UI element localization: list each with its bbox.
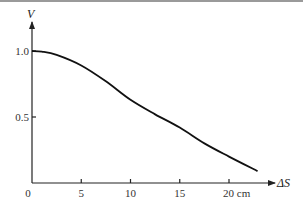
series-line-v [32,51,258,171]
x-tick-label: 15 [174,187,186,199]
y-axis-label: V [27,7,36,21]
y-tick-label: 0.5 [15,111,29,123]
x-tick-label: 0 [25,187,31,199]
x-tick-label: 5 [79,187,85,199]
x-tick-label: 20 cm [223,187,251,199]
x-tick-label: 10 [125,187,137,199]
x-axis-label: ΔS [276,176,290,190]
y-tick-label: 1.0 [15,45,29,57]
chart: ΔS V 05101520 cm 0.51.0 [0,0,303,206]
